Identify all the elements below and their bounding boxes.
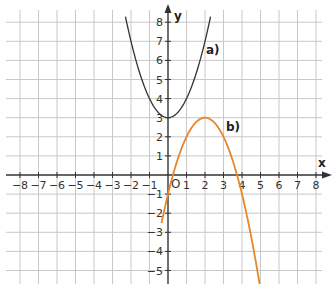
x-tick-label: 6: [276, 179, 283, 192]
x-tick-label: 2: [202, 179, 209, 192]
x-tick-label: −3: [104, 179, 120, 192]
curves: [125, 17, 259, 284]
origin-label: O: [171, 177, 180, 191]
x-tick-label: −2: [123, 179, 139, 192]
y-axis-label: y: [174, 9, 182, 23]
grid: [6, 10, 322, 284]
x-tick-label: 3: [220, 179, 227, 192]
axes: [6, 4, 332, 284]
y-tick-label: −4: [147, 245, 163, 258]
y-tick-label: 2: [156, 131, 163, 144]
x-tick-label: 1: [183, 179, 190, 192]
y-tick-label: −5: [147, 265, 163, 278]
x-tick-label: −8: [12, 179, 28, 192]
y-tick-label: 1: [156, 150, 163, 163]
x-tick-label: −4: [86, 179, 102, 192]
y-tick-label: −1: [147, 188, 163, 201]
y-tick-label: 5: [156, 74, 163, 87]
y-tick-label: −2: [147, 207, 163, 220]
y-tick-label: −3: [147, 226, 163, 239]
x-tick-label: 7: [294, 179, 301, 192]
x-tick-label: −6: [49, 179, 65, 192]
x-tick-label: −7: [30, 179, 46, 192]
y-tick-label: 7: [156, 35, 163, 48]
y-tick-label: 6: [156, 54, 163, 67]
tick-labels: −8−7−6−5−4−3−2−11234567887654321−1−2−3−4…: [12, 16, 320, 277]
y-tick-label: 8: [156, 16, 163, 29]
parabola-chart: −8−7−6−5−4−3−2−11234567887654321−1−2−3−4…: [0, 0, 336, 287]
y-tick-label: 4: [156, 93, 163, 106]
x-tick-label: 8: [313, 179, 320, 192]
x-tick-label: 5: [257, 179, 264, 192]
curve-b: [162, 118, 260, 284]
curve-b-label: b): [226, 120, 240, 134]
curve-a-label: a): [206, 43, 220, 57]
x-axis-label: x: [318, 156, 326, 170]
x-tick-label: −5: [67, 179, 83, 192]
